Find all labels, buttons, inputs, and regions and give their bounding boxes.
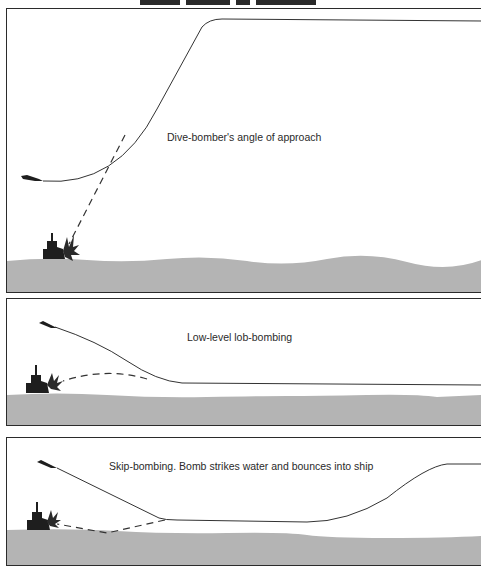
caption-lob-bombing: Low-level lob-bombing bbox=[187, 331, 292, 343]
warship-icon bbox=[27, 502, 50, 530]
dive-bombing-diagram bbox=[7, 9, 481, 293]
flight-path bbox=[43, 19, 481, 181]
caption-dive-bombing: Dive-bomber's angle of approach bbox=[167, 131, 321, 143]
sea bbox=[7, 256, 481, 293]
panel-skip-bombing: Skip-bombing. Bomb strikes water and bou… bbox=[6, 437, 481, 566]
sea bbox=[7, 529, 481, 566]
lob-bombing-diagram bbox=[7, 299, 481, 426]
title-strip-fragment bbox=[140, 0, 340, 6]
sea bbox=[7, 394, 481, 427]
explosion-icon bbox=[47, 510, 61, 528]
warship-icon bbox=[26, 365, 49, 393]
bomb-trajectory-dashed bbox=[69, 135, 125, 244]
panel-dive-bombing: Dive-bomber's angle of approach bbox=[6, 8, 481, 293]
explosion-icon bbox=[63, 235, 80, 261]
flight-path bbox=[57, 464, 481, 522]
warship-icon bbox=[43, 233, 65, 259]
aircraft-icon bbox=[21, 175, 43, 181]
aircraft-icon bbox=[39, 321, 57, 328]
caption-skip-bombing: Skip-bombing. Bomb strikes water and bou… bbox=[109, 460, 373, 472]
bomb-trajectory-dashed bbox=[63, 373, 147, 381]
skip-bombing-diagram bbox=[7, 438, 481, 566]
explosion-icon bbox=[47, 373, 63, 391]
aircraft-icon bbox=[37, 460, 57, 468]
panel-lob-bombing: Low-level lob-bombing bbox=[6, 298, 481, 426]
